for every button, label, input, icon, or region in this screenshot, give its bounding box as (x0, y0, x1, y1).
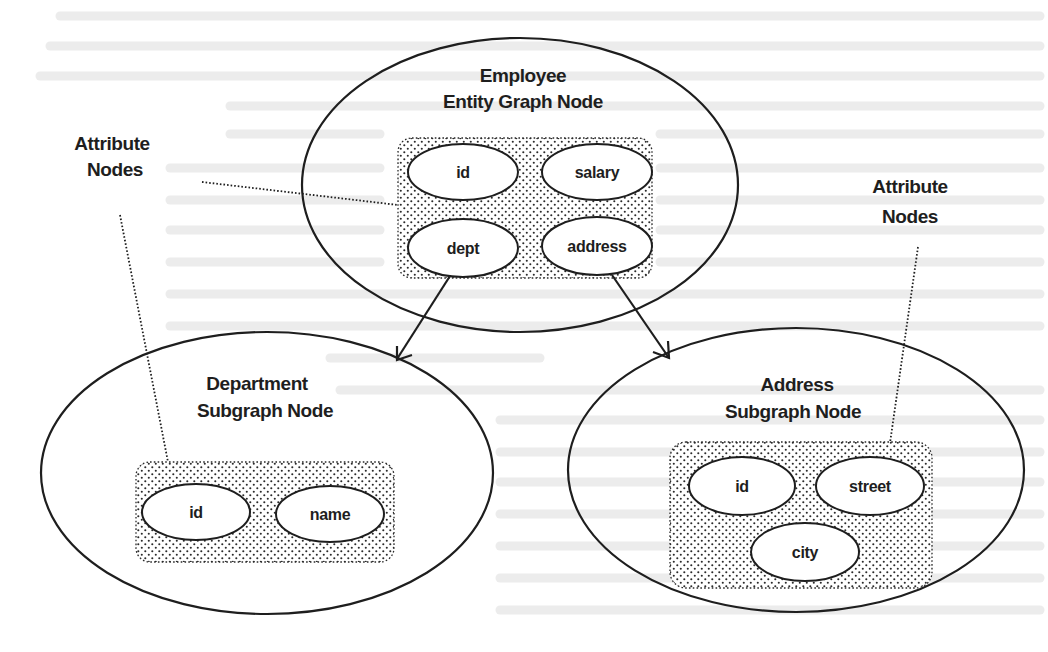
department-node-title-line1: Department (206, 373, 309, 394)
attribute-node-street: street (816, 457, 924, 515)
callout-left-leader-to-department (120, 215, 168, 462)
attribute-node-id: id (408, 144, 518, 200)
address-node-title-line2: Subgraph Node (725, 401, 861, 422)
department-node-title-line2: Subgraph Node (197, 400, 333, 421)
employee-node-title-line2: Entity Graph Node (443, 91, 603, 112)
attribute-nodes-callout-right: Attribute Nodes (872, 176, 948, 443)
attribute-label: id (735, 478, 749, 495)
attribute-label: id (456, 164, 470, 181)
attribute-label: street (849, 478, 892, 495)
entity-graph-diagram: Employee Entity Graph Node id salary dep… (0, 0, 1048, 652)
attribute-label: id (189, 504, 203, 521)
attribute-node-city: city (751, 523, 859, 581)
callout-left-line1: Attribute (74, 133, 150, 154)
attribute-node-name: name (276, 486, 384, 542)
employee-node-title-line1: Employee (480, 65, 567, 86)
attribute-node-id: id (689, 457, 795, 515)
edge-dept-to-department (397, 276, 450, 360)
attribute-node-dept: dept (408, 219, 518, 277)
attribute-node-id: id (142, 484, 250, 540)
address-subgraph-node: Address Subgraph Node id street city (568, 328, 1024, 612)
attribute-label: address (567, 238, 627, 255)
attribute-node-address: address (542, 217, 652, 275)
callout-right-line2: Nodes (882, 206, 938, 227)
attribute-label: dept (447, 240, 481, 257)
attribute-label: salary (575, 164, 620, 181)
attribute-label: city (792, 544, 819, 561)
callout-left-line2: Nodes (87, 159, 143, 180)
department-subgraph-node: Department Subgraph Node id name (41, 332, 493, 614)
attribute-node-salary: salary (542, 144, 652, 200)
employee-entity-node: Employee Entity Graph Node id salary dep… (302, 38, 738, 332)
address-node-title-line1: Address (760, 374, 833, 395)
attribute-label: name (310, 506, 351, 523)
callout-right-line1: Attribute (872, 176, 948, 197)
